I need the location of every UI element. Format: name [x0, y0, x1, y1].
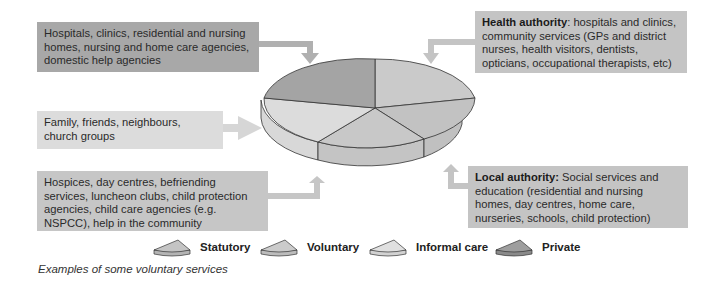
wedge-icon-private [494, 236, 538, 258]
legend-item-informal-care: Informal care [368, 236, 488, 258]
local-authority-box: Local authority: Social services and edu… [468, 166, 688, 228]
connector-informal [223, 116, 262, 140]
legend-label-statutory: Statutory [200, 241, 250, 253]
figure-caption: Examples of some voluntary services [38, 263, 228, 275]
legend-item-private: Private [494, 236, 580, 258]
informal-care-text: Family, friends, neighbours, church grou… [44, 116, 181, 142]
wedge-icon-voluntary [259, 236, 303, 258]
private-services-text: Hospitals, clinics, residential and nurs… [44, 27, 249, 66]
health-authority-box: Health authority: hospitals and clinics,… [475, 11, 687, 73]
health-authority-title: Health authority [482, 16, 567, 28]
legend-item-voluntary: Voluntary [259, 236, 359, 258]
private-services-box: Hospitals, clinics, residential and nurs… [37, 22, 259, 72]
wedge-icon-statutory [152, 236, 196, 258]
voluntary-services-text: Hospices, day centres, befriending servi… [44, 176, 247, 229]
legend-item-statutory: Statutory [152, 236, 250, 258]
legend-label-voluntary: Voluntary [307, 241, 359, 253]
connector-private [259, 41, 319, 64]
local-authority-title: Local authority: [475, 171, 559, 183]
wedge-icon-informal-care [368, 236, 412, 258]
informal-care-box: Family, friends, neighbours, church grou… [37, 111, 223, 149]
voluntary-services-box: Hospices, day centres, befriending servi… [37, 171, 268, 231]
legend-label-informal-care: Informal care [416, 241, 488, 253]
legend-label-private: Private [542, 241, 580, 253]
connector-health [423, 39, 476, 64]
connector-local [443, 164, 470, 189]
connector-voluntary [268, 176, 325, 199]
